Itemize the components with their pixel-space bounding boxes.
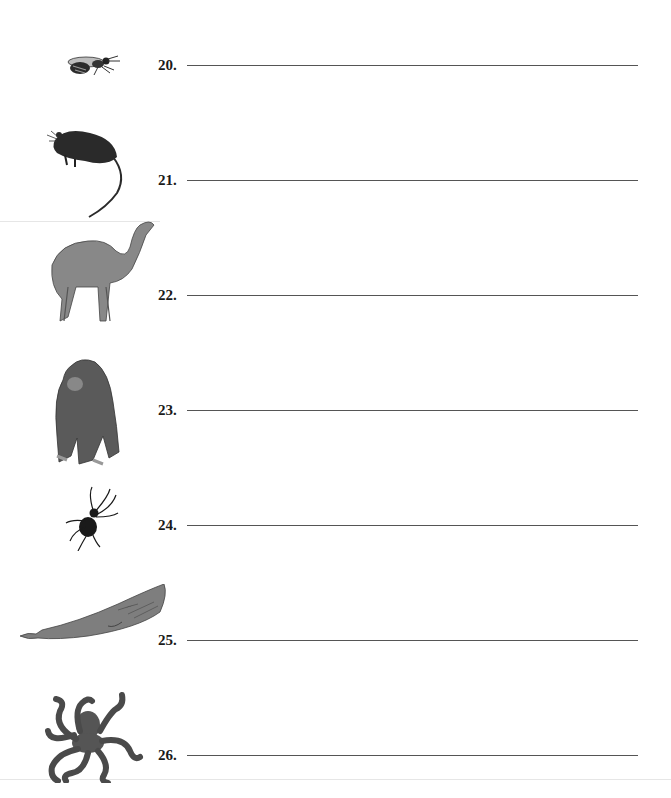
answer-line[interactable] (187, 410, 638, 411)
answer-line[interactable] (187, 65, 638, 66)
worksheet-item-20: 20. (0, 0, 671, 115)
whale-icon (18, 584, 168, 640)
worksheet-item-21: 21. (0, 115, 671, 230)
worksheet-item-25: 25. (0, 575, 671, 690)
spider-icon (64, 485, 120, 551)
gorilla-icon (53, 356, 123, 471)
answer-line[interactable] (187, 180, 638, 181)
worksheet-item-24: 24. (0, 460, 671, 575)
rat-icon (45, 125, 130, 220)
answer-line[interactable] (187, 640, 638, 641)
item-number: 23. (158, 402, 177, 418)
octopus-icon (44, 691, 144, 783)
bee-icon (64, 46, 126, 80)
camel-icon (40, 217, 160, 329)
item-number: 22. (158, 287, 177, 303)
answer-line[interactable] (187, 755, 638, 756)
item-number: 25. (158, 632, 177, 648)
answer-line[interactable] (187, 295, 638, 296)
item-number: 21. (158, 172, 177, 188)
item-number: 26. (158, 747, 177, 763)
worksheet-item-23: 23. (0, 345, 671, 460)
worksheet-item-22: 22. (0, 230, 671, 345)
item-number: 24. (158, 517, 177, 533)
answer-line[interactable] (187, 525, 638, 526)
worksheet-item-26: 26. (0, 690, 671, 798)
item-number: 20. (158, 57, 177, 73)
